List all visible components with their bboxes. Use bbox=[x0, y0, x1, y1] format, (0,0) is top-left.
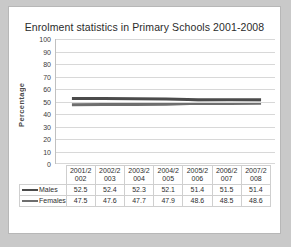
column-header-line: 2005/2 bbox=[187, 167, 208, 174]
legend-label: Males bbox=[39, 186, 58, 193]
table-body: Males52.552.452.352.151.451.551.4Females… bbox=[20, 185, 271, 207]
table-corner-cell bbox=[20, 166, 67, 185]
column-header-line: 2003/2 bbox=[128, 167, 149, 174]
column-header: 2002/2003 bbox=[95, 166, 124, 185]
y-tick-label: 100 bbox=[29, 36, 51, 43]
column-header: 2003/2004 bbox=[124, 166, 153, 185]
chart-title: Enrolment statistics in Primary Schools … bbox=[9, 21, 280, 33]
y-tick-label: 60 bbox=[29, 86, 51, 93]
column-header-line: 005 bbox=[154, 175, 182, 183]
y-tick-label: 70 bbox=[29, 73, 51, 80]
legend-item-males: Males bbox=[20, 185, 67, 196]
column-header-line: 002 bbox=[67, 175, 95, 183]
table-cell: 47.5 bbox=[66, 196, 95, 207]
y-axis-label: Percentage bbox=[15, 65, 27, 145]
gridline bbox=[56, 102, 275, 103]
table-cell: 47.6 bbox=[95, 196, 124, 207]
y-tick-label: 10 bbox=[29, 148, 51, 155]
table-cell: 48.6 bbox=[241, 196, 270, 207]
table-row: Males52.552.452.352.151.451.551.4 bbox=[20, 185, 271, 196]
column-header-line: 004 bbox=[125, 175, 153, 183]
gridline bbox=[56, 89, 275, 90]
column-header-line: 006 bbox=[183, 175, 211, 183]
table-cell: 51.4 bbox=[241, 185, 270, 196]
table-cell: 47.9 bbox=[154, 196, 183, 207]
legend-label: Females bbox=[39, 197, 66, 204]
gridline bbox=[56, 64, 275, 65]
gridline bbox=[56, 152, 275, 153]
column-header: 2001/2002 bbox=[66, 166, 95, 185]
y-tick-label: 50 bbox=[29, 98, 51, 105]
legend-item-females: Females bbox=[20, 196, 67, 207]
table-cell: 51.4 bbox=[183, 185, 212, 196]
y-tick-label: 90 bbox=[29, 48, 51, 55]
table-cell: 48.5 bbox=[212, 196, 241, 207]
table-cell: 52.4 bbox=[95, 185, 124, 196]
y-tick-label: 30 bbox=[29, 123, 51, 130]
column-header-line: 2004/2 bbox=[158, 167, 179, 174]
table-cell: 52.1 bbox=[154, 185, 183, 196]
gridline bbox=[56, 77, 275, 78]
series-line-males bbox=[72, 98, 261, 99]
gridline bbox=[56, 139, 275, 140]
column-header-line: 003 bbox=[96, 175, 124, 183]
table-cell: 51.5 bbox=[212, 185, 241, 196]
legend-line-icon bbox=[22, 200, 38, 202]
y-tick-label: 20 bbox=[29, 136, 51, 143]
gridline bbox=[56, 163, 275, 164]
column-header-line: 007 bbox=[213, 175, 241, 183]
column-header-line: 2001/2 bbox=[70, 167, 91, 174]
table-cell: 52.5 bbox=[66, 185, 95, 196]
gridline bbox=[56, 114, 275, 115]
column-header-line: 2006/2 bbox=[216, 167, 237, 174]
column-header-line: 008 bbox=[242, 175, 270, 183]
column-header: 2006/2007 bbox=[212, 166, 241, 185]
column-header-line: 2002/2 bbox=[99, 167, 120, 174]
column-header-line: 2007/2 bbox=[245, 167, 266, 174]
column-header: 2004/2005 bbox=[154, 166, 183, 185]
y-tick-label: 40 bbox=[29, 111, 51, 118]
column-header: 2005/2006 bbox=[183, 166, 212, 185]
table-cell: 48.6 bbox=[183, 196, 212, 207]
gridline bbox=[56, 39, 275, 40]
data-table: 2001/20022002/20032003/20042004/20052005… bbox=[19, 165, 271, 207]
gridline bbox=[56, 52, 275, 53]
series-line-females bbox=[72, 103, 261, 104]
table-cell: 47.7 bbox=[124, 196, 153, 207]
chart-card: Enrolment statistics in Primary Schools … bbox=[8, 6, 281, 234]
legend-line-icon bbox=[22, 189, 38, 191]
gridline bbox=[56, 127, 275, 128]
plot-area bbox=[55, 39, 275, 164]
y-tick-label: 80 bbox=[29, 61, 51, 68]
table-cell: 52.3 bbox=[124, 185, 153, 196]
column-header: 2007/2008 bbox=[241, 166, 270, 185]
table-header-row: 2001/20022002/20032003/20042004/20052005… bbox=[20, 166, 271, 185]
y-axis-ticks: 1009080706050403020100 bbox=[29, 39, 51, 164]
table-row: Females47.547.647.747.948.648.548.6 bbox=[20, 196, 271, 207]
